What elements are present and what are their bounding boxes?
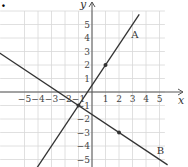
x-tick-label: −2	[58, 94, 71, 104]
coordinate-graph: −5−4−3−2−11234554321−1−2−3−4−5xyAB	[0, 0, 188, 167]
y-tick-label: −4	[77, 141, 91, 151]
y-tick-label: 1	[84, 74, 90, 84]
line-b-label: B	[157, 145, 164, 156]
x-tick-label: −4	[31, 94, 45, 104]
y-tick-label: −1	[77, 101, 90, 111]
y-axis-label: y	[79, 0, 87, 11]
x-tick-label: 4	[143, 94, 149, 104]
x-tick-label: 5	[157, 94, 163, 104]
y-tick-label: 3	[84, 47, 90, 57]
y-tick-label: −5	[77, 155, 91, 165]
x-tick-label: 3	[130, 94, 136, 104]
line-a-label: A	[130, 29, 139, 40]
figure-marker: .	[1, 0, 6, 10]
axes	[0, 2, 183, 167]
x-tick-label: 2	[116, 94, 122, 104]
x-axis-label: x	[178, 94, 185, 107]
y-tick-label: 5	[84, 20, 90, 30]
x-tick-label: −3	[45, 94, 59, 104]
y-tick-label: 4	[84, 33, 90, 43]
y-tick-label: 2	[84, 60, 90, 70]
y-tick-label: −3	[77, 128, 91, 138]
point-a	[104, 63, 108, 67]
y-tick-label: −2	[77, 114, 90, 124]
x-tick-label: 1	[103, 94, 109, 104]
x-tick-label: −5	[18, 94, 32, 104]
point-b	[117, 131, 121, 135]
